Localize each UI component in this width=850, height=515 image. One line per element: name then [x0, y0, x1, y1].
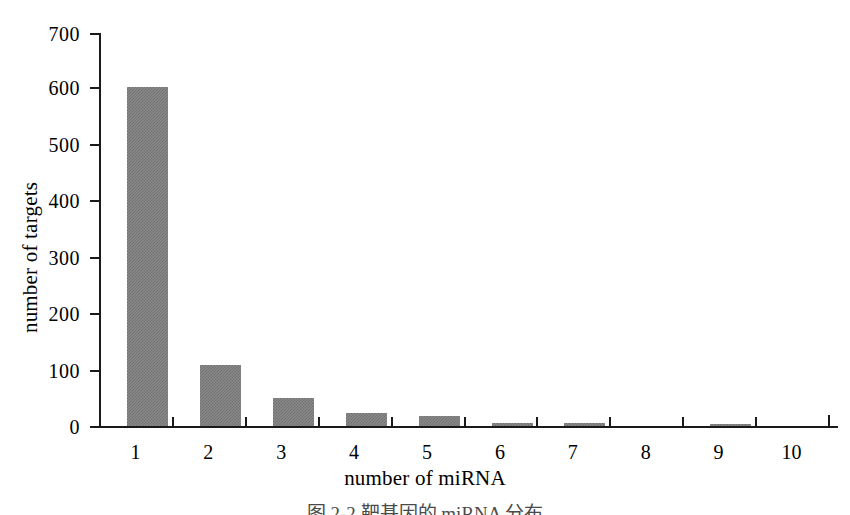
y-tick-label-0: 0 [70, 417, 81, 437]
x-tick-label-7: 7 [568, 442, 578, 462]
x-tick-boundary-6 [536, 417, 538, 428]
y-tick-label-400: 400 [49, 191, 81, 211]
y-tick-label-600: 600 [49, 78, 81, 98]
y-tick-0: 0 [90, 426, 101, 428]
x-tick-label-9: 9 [714, 442, 724, 462]
x-tick-boundary-5 [464, 417, 466, 428]
bar-2 [200, 365, 241, 426]
x-tick-boundary-3 [318, 417, 320, 428]
x-tick-label-2: 2 [203, 442, 213, 462]
y-tick-label-200: 200 [49, 304, 81, 324]
bar-7 [564, 423, 605, 426]
x-tick-boundary-7 [609, 417, 611, 428]
bar-3 [273, 398, 314, 426]
bar-9 [710, 424, 751, 426]
x-axis-line [99, 426, 838, 428]
y-tick-300: 300 [90, 257, 101, 259]
x-tick-boundary-4 [391, 417, 393, 428]
x-axis-title: number of miRNA [0, 466, 850, 491]
y-tick-700: 700 [90, 33, 101, 35]
y-tick-label-300: 300 [49, 248, 81, 268]
bar-4 [346, 413, 387, 426]
y-tick-label-700: 700 [49, 24, 81, 44]
x-tick-label-1: 1 [130, 442, 140, 462]
x-tick-label-8: 8 [641, 442, 651, 462]
bar-1 [127, 87, 168, 426]
x-tick-label-10: 10 [782, 442, 802, 462]
bar-5 [419, 416, 460, 426]
y-tick-500: 500 [90, 144, 101, 146]
y-axis-title: number of targets [16, 0, 46, 515]
x-tick-boundary-9 [755, 417, 757, 428]
y-tick-400: 400 [90, 200, 101, 202]
y-axis-title-text: number of targets [19, 182, 44, 333]
bar-6 [492, 423, 533, 426]
x-tick-boundary-8 [682, 417, 684, 428]
y-tick-label-100: 100 [49, 361, 81, 381]
x-tick-label-5: 5 [422, 442, 432, 462]
y-tick-100: 100 [90, 370, 101, 372]
plot-area: 0 100 200 300 400 500 600 700 [99, 33, 838, 428]
figure-caption: 图 2-2 靶基因的 miRNA 分布 [0, 503, 850, 515]
x-tick-boundary-2 [245, 417, 247, 428]
y-tick-label-500: 500 [49, 135, 81, 155]
x-tick-boundary-10 [828, 415, 830, 428]
x-tick-label-6: 6 [495, 442, 505, 462]
y-tick-600: 600 [90, 87, 101, 89]
bar-chart-figure: number of targets 0 100 200 300 400 500 … [0, 0, 850, 515]
x-tick-label-3: 3 [276, 442, 286, 462]
y-tick-200: 200 [90, 313, 101, 315]
x-tick-label-4: 4 [349, 442, 359, 462]
x-tick-boundary-1 [172, 417, 174, 428]
